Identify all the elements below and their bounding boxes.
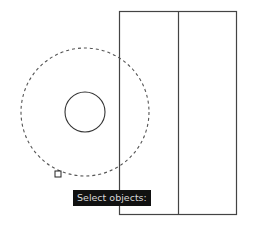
prompt-text: Select objects: (77, 192, 147, 203)
inner-circle[interactable] (65, 92, 105, 132)
grip-square-icon[interactable] (55, 171, 61, 177)
command-prompt-tooltip: Select objects: (73, 190, 151, 206)
outer-circle-dashed[interactable] (21, 48, 149, 176)
